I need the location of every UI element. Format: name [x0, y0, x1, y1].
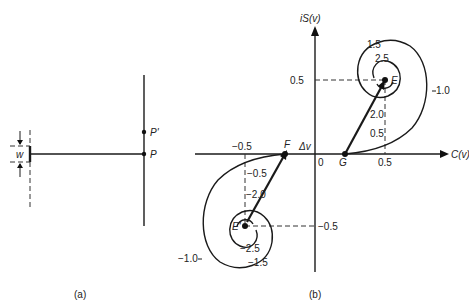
point-e-prime-label: E' [232, 221, 242, 232]
spiral-label-2-0: 2.0 [370, 109, 384, 120]
spiral-label-neg-0-5: −0.5 [247, 168, 267, 179]
spiral-label-neg-1-0: −1.0 [178, 253, 198, 264]
x-axis-arrow-icon [440, 150, 449, 158]
arrow-up-icon [17, 163, 23, 168]
width-label: w [16, 149, 24, 160]
tick-y-neg: −0.5 [318, 221, 338, 232]
point-e-dot [382, 77, 388, 83]
arrow-down-icon [17, 140, 23, 145]
point-e-label: E [391, 75, 398, 86]
point-g-label: G [339, 157, 347, 168]
y-axis-arrow-icon [311, 26, 319, 36]
spiral-label-neg-1-5: −1.5 [248, 257, 268, 268]
panel-a: w P P' (a) [10, 75, 160, 300]
spiral-label-neg-2-0: −2.0 [246, 189, 266, 200]
point-p-dot [142, 152, 146, 156]
spiral-label-0-5: 0.5 [370, 128, 384, 139]
diagram-canvas: w P P' (a) iS(v) C(v) 0 0.5 0.5 −0.5 −0.… [0, 0, 469, 304]
tick-y-pos: 0.5 [290, 75, 304, 86]
panel-b: iS(v) C(v) 0 0.5 0.5 −0.5 −0.5 E E' F G … [178, 13, 469, 300]
point-f-label: F [284, 139, 291, 150]
point-f-dot [282, 151, 288, 157]
x-axis-label: C(v) [451, 149, 469, 160]
spiral-label-neg-2-5: −2.5 [240, 243, 260, 254]
panel-a-caption: (a) [74, 289, 86, 300]
delta-v-label: Δv [298, 141, 312, 152]
point-p-prime-label: P' [150, 127, 160, 138]
spiral-label-1-0: 1.0 [436, 85, 450, 96]
y-axis-label: iS(v) [300, 13, 321, 24]
point-p-label: P [150, 149, 157, 160]
origin-label: 0 [318, 157, 324, 168]
tick-x-neg: −0.5 [232, 141, 252, 152]
spiral-label-2-5: 2.5 [375, 53, 389, 64]
panel-b-caption: (b) [309, 289, 321, 300]
tick-x-pos: 0.5 [378, 157, 392, 168]
point-p-prime-dot [142, 130, 146, 134]
point-e-prime-dot [242, 223, 248, 229]
spiral-label-1-5: 1.5 [367, 39, 381, 50]
phasor-eprime-f [247, 154, 285, 222]
